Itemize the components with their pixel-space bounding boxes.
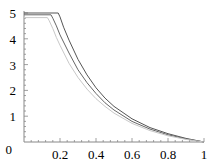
tick-labels: 0.20.40.60.81012345 [6,6,208,162]
y-tick-label: 1 [10,109,17,124]
y-tick-label: 5 [10,6,17,21]
x-tick-label: 0.4 [88,147,105,162]
x-tick-label: 0.6 [124,147,141,162]
axes [24,11,204,142]
series-line-curve-3 [24,18,204,142]
x-tick-label: 1 [201,147,208,162]
x-tick-label: 0.8 [160,147,176,162]
y-tick-label: 4 [10,32,17,47]
series-line-curve-1 [24,13,204,142]
series-group [24,13,204,142]
chart: 0.20.40.60.81012345 [0,0,216,166]
y-tick-label: 3 [10,58,17,73]
series-line-curve-2 [24,15,204,142]
y-tick-label: 0 [6,142,13,157]
x-tick-label: 0.2 [52,147,68,162]
y-tick-label: 2 [10,83,17,98]
